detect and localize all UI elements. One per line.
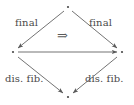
diagram-canvas (0, 0, 134, 105)
vertex-dot-top (67, 6, 69, 8)
edge-label-final-left: final (15, 18, 38, 28)
vertex-dot-right (121, 51, 123, 53)
edge-label-final-right: final (89, 18, 112, 28)
implies-symbol-icon: ⇒ (57, 29, 68, 42)
edge-label-dis-fib-right: dis. fib. (85, 74, 123, 84)
edge-label-dis-fib-left: dis. fib. (5, 74, 43, 84)
vertex-dot-bottom (67, 96, 69, 98)
commutative-diagram: final final dis. fib. dis. fib. ⇒ (0, 0, 134, 105)
vertex-dot-left (12, 51, 14, 53)
